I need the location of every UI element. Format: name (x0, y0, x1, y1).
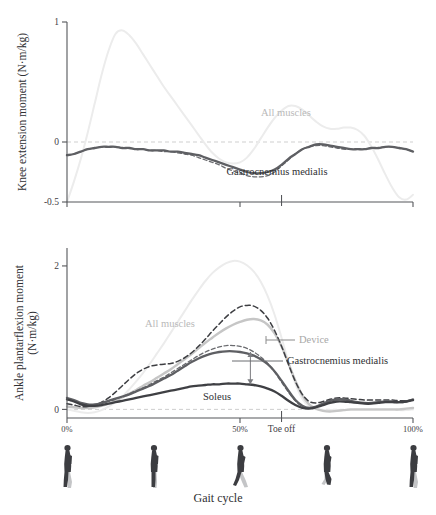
gait-figure-100 (410, 445, 419, 488)
x-tick-label-50: 50% (232, 424, 248, 434)
x-tick-label-0: 0% (61, 424, 72, 434)
label-all-muscles-ankle: All muscles (145, 318, 195, 329)
label-device: Device (299, 334, 329, 345)
y-axis-title-ankle-line1: Ankle plantarflexion moment (13, 264, 26, 401)
silhouette-head (237, 445, 243, 451)
silhouette-head (64, 445, 70, 451)
y-tick-label-ankle-0: 0 (54, 405, 59, 415)
silhouette-body (151, 451, 159, 487)
y-tick-label-knee-0: 0 (54, 137, 59, 147)
y-tick-label-knee-1: 1 (54, 17, 59, 27)
silhouette-head (324, 445, 330, 451)
gait-biomechanics-figure: 10-0.520Knee extension moment (N·m/kg)An… (0, 0, 436, 515)
label-gastrocnemius-medialis-knee: Gastrocnemius medialis (226, 166, 327, 177)
y-axis-title-ankle-line2: (N·m/kg) (26, 311, 39, 355)
label-all-muscles-knee: All muscles (261, 107, 311, 118)
y-tick-label-ankle-2: 2 (54, 261, 59, 271)
gait-figure-0 (64, 445, 73, 488)
silhouette-head (410, 445, 416, 451)
label-soleus: Soleus (203, 391, 231, 402)
curve-all-muscles (67, 261, 413, 413)
gait-figure-25 (151, 445, 159, 488)
figure-canvas: 10-0.520Knee extension moment (N·m/kg)An… (0, 0, 436, 515)
y-axis-title-knee: Knee extension moment (N·m/kg) (16, 33, 29, 191)
label-gastrocnemius-medialis-ankle: Gastrocnemius medialis (287, 355, 388, 366)
panel-knee: 10-0.5 (44, 17, 413, 207)
x-tick-label-toe-off: Toe off (268, 424, 296, 434)
x-axis-title: Gait cycle (194, 491, 243, 505)
gait-figure-50 (233, 445, 248, 488)
silhouette-head (151, 445, 157, 451)
soleus-gm-difference-arrow (247, 352, 253, 384)
panel-ankle: 20 (54, 248, 413, 423)
gait-figure-75 (322, 445, 332, 485)
curve-soleus (67, 384, 413, 409)
x-tick-label-100: 100% (403, 424, 423, 434)
y-tick-label-knee--0.5: -0.5 (44, 197, 59, 207)
